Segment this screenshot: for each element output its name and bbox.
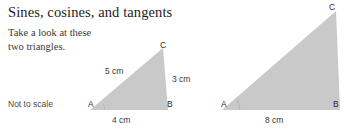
small-triangle-vertex-label-b: B [167, 99, 173, 109]
small-triangle-vertex-label-c: C [160, 40, 166, 50]
large-triangle-base-length: 8 cm [265, 115, 283, 125]
small-triangle-base-length: 4 cm [112, 115, 130, 125]
large-triangle-vertex-label-c: C [329, 2, 335, 12]
worksheet-figure-panel: Sines, cosines, and tangents Take a look… [0, 0, 350, 132]
small-triangle-vertex-label-a: A [88, 99, 94, 109]
large-triangle-vertex-label-b: B [333, 99, 339, 109]
small-triangle-shape [90, 48, 168, 110]
small-triangle-vertical-length: 3 cm [172, 74, 190, 84]
large-triangle-vertex-label-a: A [221, 99, 227, 109]
large-triangle-shape [222, 11, 340, 110]
small-triangle-hypotenuse-length: 5 cm [105, 66, 123, 76]
triangles-diagram [0, 0, 350, 132]
